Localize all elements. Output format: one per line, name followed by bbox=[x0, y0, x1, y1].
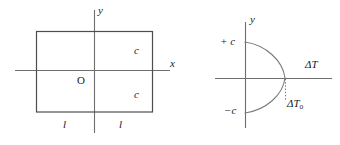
upper-limit-label: + c bbox=[220, 36, 235, 47]
left-x-axis-label: x bbox=[170, 58, 175, 69]
right-y-axis-label: y bbox=[250, 14, 255, 25]
half-height-top-label: c bbox=[134, 45, 139, 56]
right-x-axis-label: ΔT bbox=[305, 59, 318, 70]
left-panel-group bbox=[15, 10, 170, 133]
left-y-axis-label: y bbox=[98, 5, 103, 16]
origin-label: O bbox=[77, 75, 85, 86]
bifurcation-curve bbox=[245, 42, 285, 113]
critical-point-label: ΔTo bbox=[287, 98, 303, 110]
critical-point-label-subscript: o bbox=[300, 102, 304, 111]
figure-canvas: y x O c c l l y + c −c ΔT ΔTo bbox=[0, 0, 340, 145]
half-width-right-label: l bbox=[119, 119, 122, 130]
lower-limit-label: −c bbox=[224, 105, 236, 116]
half-height-bottom-label: c bbox=[134, 89, 139, 100]
figure-svg bbox=[0, 0, 340, 145]
critical-point-label-base: ΔT bbox=[287, 97, 300, 109]
half-width-left-label: l bbox=[63, 119, 66, 130]
